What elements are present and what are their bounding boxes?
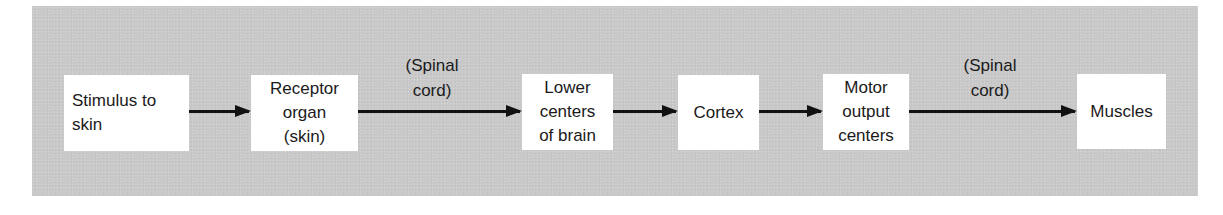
node-muscles: Muscles: [1077, 74, 1166, 149]
edge-label-line: cord): [392, 78, 472, 103]
node-label-line: of brain: [539, 124, 596, 148]
node-receptor-organ: Receptor organ (skin): [251, 75, 358, 151]
node-label-line: Motor: [844, 76, 887, 100]
node-label-line: skin: [72, 113, 102, 137]
node-label-line: Muscles: [1090, 100, 1152, 124]
node-lower-centers-of-brain: Lower centers of brain: [522, 74, 613, 150]
node-label-line: Stimulus to: [72, 89, 156, 113]
arrow-receptor-to-lower-centers: [358, 110, 520, 113]
arrow-cortex-to-motor-output: [759, 110, 821, 113]
edge-label-line: (Spinal: [950, 53, 1030, 78]
node-label-line: centers: [540, 100, 596, 124]
node-label-line: (skin): [284, 125, 326, 149]
arrow-motor-output-to-muscles: [909, 110, 1075, 113]
edge-label-line: (Spinal: [392, 53, 472, 78]
node-label-line: Receptor: [270, 77, 339, 101]
node-label-line: Lower: [544, 76, 590, 100]
node-motor-output-centers: Motor output centers: [823, 74, 909, 150]
node-label-line: Cortex: [693, 101, 743, 125]
node-label-line: organ: [283, 101, 326, 125]
node-label-line: output: [842, 100, 889, 124]
edge-label-line: cord): [950, 78, 1030, 103]
node-cortex: Cortex: [678, 75, 759, 150]
edge-label-spinal-cord: (Spinal cord): [950, 53, 1030, 103]
node-stimulus-to-skin: Stimulus to skin: [64, 75, 189, 151]
arrow-stimulus-to-receptor: [189, 110, 249, 113]
arrow-lower-centers-to-cortex: [613, 110, 676, 113]
node-label-line: centers: [838, 124, 894, 148]
edge-label-spinal-cord: (Spinal cord): [392, 53, 472, 103]
